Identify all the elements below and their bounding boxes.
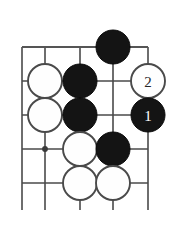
- white-stone: [28, 64, 62, 98]
- stone-black-c3r2: [63, 64, 97, 98]
- stone-white-c2r3: [28, 98, 62, 132]
- stone-black-c5r3: 1: [131, 98, 165, 132]
- stone-black-c4r1: [96, 30, 130, 64]
- stone-move-number: 1: [144, 108, 152, 124]
- caption-strip: [0, 221, 175, 232]
- white-stone: [63, 166, 97, 200]
- star-point-0: [42, 146, 48, 152]
- white-stone: [96, 166, 130, 200]
- black-stone: [96, 30, 130, 64]
- white-stone: [28, 98, 62, 132]
- stone-white-c3r5: [63, 166, 97, 200]
- go-board: 21: [0, 0, 175, 232]
- black-stone: [63, 64, 97, 98]
- stone-white-c5r2: 2: [131, 64, 165, 98]
- stone-white-c4r5: [96, 166, 130, 200]
- black-stone: [96, 132, 130, 166]
- white-stone: [63, 132, 97, 166]
- stone-white-c3r4: [63, 132, 97, 166]
- black-stone: [63, 98, 97, 132]
- stone-black-c4r4: [96, 132, 130, 166]
- stone-white-c2r2: [28, 64, 62, 98]
- stone-black-c3r3: [63, 98, 97, 132]
- go-diagram-figure: 21: [0, 0, 175, 232]
- board-star-points: [42, 146, 48, 152]
- stone-move-number: 2: [144, 74, 152, 90]
